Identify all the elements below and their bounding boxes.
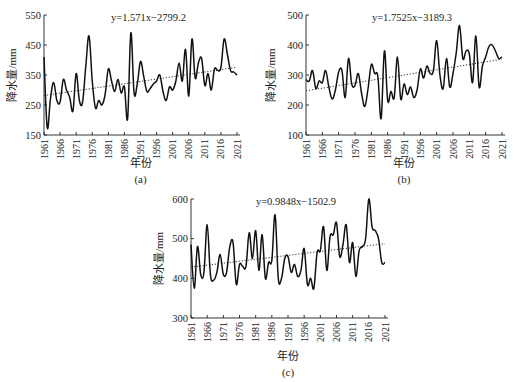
y-axis-label: 降水量/mm [5,48,18,102]
x-tick-label: 1976 [234,322,245,342]
x-tick-label: 2021 [232,139,243,159]
x-tick-label: 2021 [497,139,508,159]
y-tick-label: 300 [287,70,303,81]
chart-c: 3004005006001961196619711976198119861991… [145,185,405,382]
x-tick-label: 2006 [448,139,459,159]
x-tick-label: 2011 [199,139,210,159]
x-tick-label: 1986 [119,139,130,159]
y-tick-label: 100 [287,130,303,141]
chart-b: 1002003004005001961196619711976198119861… [257,0,514,190]
y-tick-label: 500 [287,10,303,21]
x-tick-label: 1966 [317,139,328,159]
x-tick-label: 1981 [103,139,114,159]
x-tick-label: 1986 [266,322,277,342]
precipitation-line [44,33,237,129]
x-tick-label: 1996 [299,322,310,342]
trend-line [44,67,237,95]
x-tick-label: 1991 [283,322,294,342]
y-tick-label: 300 [172,313,188,324]
x-tick-label: 1966 [202,322,213,342]
precipitation-line [306,25,502,118]
y-tick-label: 600 [172,194,188,205]
y-tick-label: 150 [25,130,41,141]
y-tick-label: 500 [172,233,188,244]
x-axis-label: 年份 [130,156,152,169]
x-tick-label: 1976 [87,139,98,159]
panel-caption: (c) [282,366,295,379]
y-tick-label: 400 [172,273,188,284]
chart-a: 1502503504505501961196619711976198119861… [0,0,257,190]
x-tick-label: 1961 [301,139,312,159]
x-axis-label: 年份 [393,156,415,169]
x-tick-label: 2001 [167,139,178,159]
x-tick-label: 2016 [215,139,226,159]
y-tick-label: 400 [287,40,303,51]
x-tick-label: 1971 [218,322,229,342]
x-tick-label: 2006 [331,322,342,342]
regression-equation: y=1.571x−2799.2 [111,12,186,23]
x-tick-label: 2011 [347,322,358,342]
precipitation-line [191,199,385,289]
x-tick-label: 1981 [366,139,377,159]
x-tick-label: 1961 [186,322,197,342]
x-tick-label: 2001 [315,322,326,342]
x-tick-label: 1996 [151,139,162,159]
x-tick-label: 1981 [250,322,261,342]
y-tick-label: 350 [25,70,41,81]
y-tick-label: 550 [25,10,41,21]
x-tick-label: 1966 [55,139,66,159]
x-tick-label: 2006 [183,139,194,159]
y-axis-label: 降水量/mm [152,231,165,285]
x-tick-label: 1991 [399,139,410,159]
y-tick-label: 250 [25,100,41,111]
x-tick-label: 1991 [135,139,146,159]
x-tick-label: 1971 [333,139,344,159]
x-tick-label: 1976 [350,139,361,159]
x-tick-label: 2016 [480,139,491,159]
y-tick-label: 200 [287,100,303,111]
x-tick-label: 1996 [415,139,426,159]
y-tick-label: 450 [25,40,41,51]
x-tick-label: 2011 [464,139,475,159]
regression-equation: y=1.7525x−3189.3 [372,12,452,23]
x-axis-label: 年份 [277,349,299,362]
regression-equation: y=0.9848x−1502.9 [256,196,336,207]
x-tick-label: 2021 [380,322,391,342]
x-tick-label: 2016 [363,322,374,342]
y-axis-label: 降水量/mm [264,48,277,102]
x-tick-label: 1961 [39,139,50,159]
x-tick-label: 1986 [382,139,393,159]
x-tick-label: 2001 [431,139,442,159]
x-tick-label: 1971 [71,139,82,159]
